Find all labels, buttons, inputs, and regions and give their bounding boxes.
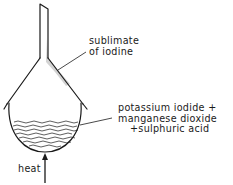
iodine-sublimate-shading — [36, 38, 70, 86]
label-sublimate: sublimate of iodine — [89, 36, 139, 57]
label-mixture: potassium iodide + manganese dioxide +su… — [118, 103, 217, 135]
label-mixture-line3: +sulphuric acid — [118, 124, 217, 135]
label-heat: heat — [18, 164, 41, 175]
label-sublimate-line1: sublimate — [89, 36, 139, 47]
flask-bulb — [9, 103, 81, 152]
flask-shoulder-left — [7, 58, 40, 104]
heat-arrow — [42, 153, 48, 183]
arrowhead-icon — [42, 153, 48, 160]
label-mixture-line1: potassium iodide + — [118, 103, 217, 114]
leader-sublimate — [58, 52, 86, 70]
flask-diagram — [0, 0, 233, 185]
label-sublimate-line2: of iodine — [89, 47, 139, 58]
leader-lines — [58, 52, 112, 125]
leader-mixture — [80, 118, 112, 125]
round-bottom-flask — [4, 4, 87, 152]
